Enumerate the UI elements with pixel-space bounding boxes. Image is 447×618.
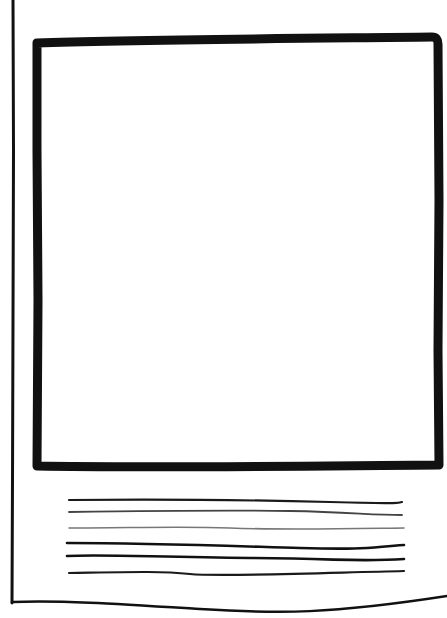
page-left-edge bbox=[12, 0, 14, 603]
page-bottom-edge bbox=[12, 596, 447, 612]
text-line-1 bbox=[69, 500, 402, 504]
image-placeholder-box bbox=[37, 37, 439, 467]
text-line-5 bbox=[67, 555, 404, 560]
text-line-4 bbox=[67, 543, 404, 549]
text-line-2 bbox=[69, 511, 402, 515]
text-line-3 bbox=[69, 527, 404, 529]
wireframe-canvas: wireframe bbox=[0, 0, 447, 618]
text-placeholder-lines bbox=[67, 500, 404, 575]
text-line-6 bbox=[69, 571, 404, 575]
wireframe-sketch bbox=[0, 0, 447, 618]
